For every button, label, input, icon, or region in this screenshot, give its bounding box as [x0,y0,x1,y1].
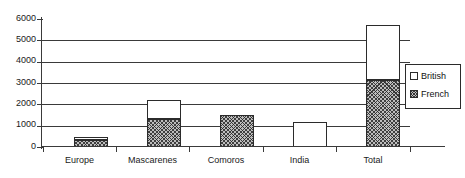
bar-india-british [293,122,327,147]
gridline-4000 [43,62,410,63]
bar-total[interactable] [366,25,400,147]
x-axis-label-total: Total [336,155,410,165]
y-axis-label-0: 0 [2,142,36,151]
x-tick-5 [410,147,411,152]
x-axis-label-india: India [263,155,336,165]
y-axis-label-2000: 2000 [2,99,36,108]
legend-label-british: British [421,71,446,81]
y-axis-label-6000: 6000 [2,14,36,23]
gridline-5000 [43,40,410,41]
x-axis-label-mascarenes: Mascarenes [116,155,189,165]
y-axis-label-5000: 5000 [2,35,36,44]
y-axis-label-3000: 3000 [2,78,36,87]
x-tick-2 [189,147,190,152]
bar-mascarenes-french [147,119,181,147]
x-tick-0 [43,147,44,152]
bar-mascarenes-british [147,100,181,119]
legend-label-french: French [421,89,449,99]
white-square-icon [410,72,418,80]
x-axis-line [41,146,445,147]
y-axis-label-1000: 1000 [2,120,36,129]
hatched-square-icon [410,90,418,98]
bar-mascarenes[interactable] [147,100,181,147]
chart-legend: British French [405,64,461,109]
y-axis-line [41,17,42,149]
x-tick-3 [263,147,264,152]
bar-total-french [366,80,400,147]
bar-total-british [366,25,400,79]
x-axis-label-comoros: Comoros [189,155,263,165]
x-axis-label-europe: Europe [43,155,116,165]
bar-europe-british [74,137,108,140]
x-tick-4 [336,147,337,152]
y-axis-label-4000: 4000 [2,56,36,65]
plot-area [43,19,410,147]
gridline-2000 [43,104,410,105]
legend-item-british[interactable]: British [410,70,460,81]
bar-comoros[interactable] [220,115,254,147]
gridline-3000 [43,83,410,84]
bar-comoros-french [220,115,254,147]
y-axis-labels: 6000 5000 4000 3000 2000 1000 0 [0,0,36,178]
legend-item-french[interactable]: French [410,88,460,99]
stacked-bar-chart: 6000 5000 4000 3000 2000 1000 0 [0,0,465,178]
bar-india[interactable] [293,122,327,147]
x-tick-1 [116,147,117,152]
